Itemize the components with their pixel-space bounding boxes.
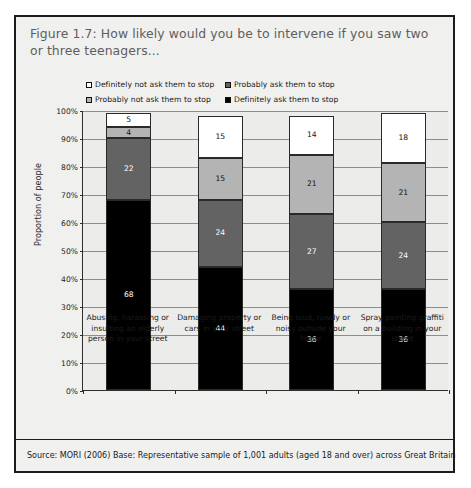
bar-segment-value-label: 15	[215, 133, 225, 141]
x-axis-category-label: Being loud, rowdy ornoisy outside yourho…	[265, 313, 357, 345]
y-axis-tick-mark	[80, 111, 83, 112]
y-axis-tick-mark	[80, 307, 83, 308]
bar-segment[interactable]: 14	[289, 116, 334, 155]
y-axis-title: Proportion of people	[34, 135, 43, 275]
bar-segment-value-label: 18	[398, 134, 408, 142]
y-axis-tick-mark	[80, 279, 83, 280]
bar-column[interactable]: 44241515	[198, 111, 243, 390]
figure-panel: Figure 1.7: How likely would you be to i…	[14, 15, 455, 473]
y-axis-tick-label: 100%	[56, 107, 78, 116]
x-axis-tick-mark	[83, 390, 84, 394]
y-axis-tick-label: 80%	[61, 163, 78, 172]
x-axis-category-label-line: insulting an elderly	[82, 324, 174, 335]
y-axis-tick-label: 40%	[61, 275, 78, 284]
bar-segment[interactable]: 18	[381, 113, 426, 163]
bar-segment[interactable]: 15	[198, 158, 243, 200]
y-axis-tick-label: 0%	[66, 387, 78, 396]
bar-column[interactable]: 36242118	[381, 111, 426, 390]
bar-segment[interactable]: 4	[106, 127, 151, 138]
bar-segment[interactable]: 68	[106, 200, 151, 390]
y-axis-tick-label: 70%	[61, 191, 78, 200]
x-axis-category-label-line: street	[357, 334, 449, 345]
x-axis-category-label-line: noisy outside your	[265, 324, 357, 335]
source-footnote-box: Source: MORI (2006) Base: Representative…	[16, 439, 453, 471]
bar-segment-value-label: 68	[124, 291, 134, 299]
bar-segment[interactable]: 24	[198, 200, 243, 267]
x-axis-category-label-line: Spray-painting graffiti	[357, 313, 449, 324]
bar-segment[interactable]: 5	[106, 113, 151, 127]
y-axis-tick-label: 50%	[61, 247, 78, 256]
y-axis-tick-label: 30%	[61, 303, 78, 312]
x-axis-category-label: Abusing, harassing orinsulting an elderl…	[82, 313, 174, 345]
source-footnote-text: Source: MORI (2006) Base: Representative…	[27, 451, 456, 460]
bar-segment-value-label: 21	[307, 180, 317, 188]
y-axis-tick-label: 60%	[61, 219, 78, 228]
bar-segment[interactable]: 15	[198, 116, 243, 158]
bar-segment[interactable]: 22	[106, 138, 151, 200]
y-axis-tick-mark	[80, 167, 83, 168]
x-axis-category-label-line: cars in your street	[174, 324, 266, 335]
y-axis-tick-mark	[80, 251, 83, 252]
bar-segment-value-label: 21	[398, 189, 408, 197]
bar-segment-value-label: 22	[124, 165, 134, 173]
bar-segment-value-label: 27	[307, 248, 317, 256]
bar-segment[interactable]: 21	[289, 155, 334, 214]
bar-segment-value-label: 5	[126, 116, 131, 124]
y-axis-tick-label: 20%	[61, 331, 78, 340]
bar-segment-value-label: 15	[215, 175, 225, 183]
x-axis-category-label-line: Abusing, harassing or	[82, 313, 174, 324]
x-axis-category-label: Damaging property orcars in your street	[174, 313, 266, 334]
y-axis-tick-mark	[80, 363, 83, 364]
x-axis-tick-mark	[358, 390, 359, 394]
y-axis-tick-mark	[80, 195, 83, 196]
y-axis-tick-mark	[80, 223, 83, 224]
x-axis-tick-mark	[266, 390, 267, 394]
x-axis-tick-mark	[175, 390, 176, 394]
y-axis-tick-label: 90%	[61, 135, 78, 144]
bar-segment[interactable]: 21	[381, 163, 426, 222]
chart-container: Proportion of people 0%10%20%30%40%50%60…	[16, 17, 453, 471]
x-axis-category-label-line: Being loud, rowdy or	[265, 313, 357, 324]
x-axis-tick-mark	[449, 390, 450, 394]
bar-column[interactable]: 682245	[106, 111, 151, 390]
x-axis-category-label: Spray-painting graffition a building in …	[357, 313, 449, 345]
y-axis-tick-label: 10%	[61, 359, 78, 368]
bar-segment-value-label: 24	[215, 229, 225, 237]
bar-segment-value-label: 24	[398, 252, 408, 260]
y-axis-tick-mark	[80, 139, 83, 140]
bar-segment[interactable]: 24	[381, 222, 426, 289]
bar-segment[interactable]: 27	[289, 214, 334, 290]
x-axis-category-label-line: on a building in your	[357, 324, 449, 335]
x-axis-category-label-line: person in your street	[82, 334, 174, 345]
x-axis-category-label-line: home	[265, 334, 357, 345]
plot-area: 0%10%20%30%40%50%60%70%80%90%100%6822454…	[82, 111, 448, 391]
bar-segment-value-label: 14	[307, 131, 317, 139]
x-axis-category-label-line: Damaging property or	[174, 313, 266, 324]
bar-segment-value-label: 4	[126, 129, 131, 137]
bar-column[interactable]: 36272114	[289, 111, 334, 390]
